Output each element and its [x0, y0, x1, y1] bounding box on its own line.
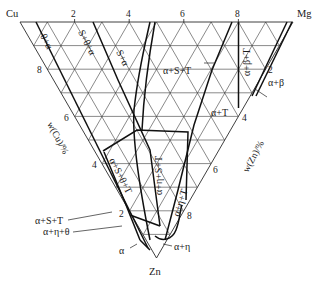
right-axis-label: w(Zn)/%: [241, 139, 267, 175]
leader-lines: [68, 63, 267, 248]
right-tick-4: 4: [242, 113, 247, 123]
ternary-phase-diagram: Cu Mg Zn 2 4 6 8 8 6 4 2 2 4 6 8 w(Cu)/%…: [0, 0, 317, 284]
top-tick-8: 8: [235, 9, 240, 19]
region-alpha-eta-theta: α+η+θ: [43, 226, 70, 237]
left-axis-label: w(Cu)/%: [44, 120, 70, 156]
region-alpha-s-t-top: α+S+T: [163, 65, 191, 76]
left-tick-6: 6: [64, 113, 69, 123]
top-tick-2: 2: [71, 9, 76, 19]
region-alpha-eta: α+η: [174, 241, 190, 252]
region-theta-alpha: θ+α: [38, 32, 55, 52]
region-alpha-t: α+T: [211, 107, 228, 118]
region-s-alpha: S+α: [114, 48, 132, 68]
top-tick-6: 6: [180, 9, 185, 19]
region-alpha-beta-t: α+β+T: [241, 48, 252, 76]
left-tick-4: 4: [92, 160, 97, 170]
region-alpha: α: [119, 245, 125, 256]
region-s-theta-alpha: S+θ+α: [76, 28, 98, 58]
right-tick-8: 8: [187, 211, 192, 221]
right-tick-2: 2: [268, 65, 273, 75]
corner-label-zn: Zn: [149, 266, 161, 277]
region-alpha-beta: α+β: [268, 77, 284, 88]
left-tick-2: 2: [119, 209, 124, 219]
corner-label-cu: Cu: [6, 8, 19, 19]
corner-label-mg: Mg: [297, 8, 312, 19]
left-tick-8: 8: [37, 65, 42, 75]
top-tick-4: 4: [126, 9, 131, 19]
right-tick-6: 6: [213, 165, 218, 175]
region-alpha-s-t-left: α+S+T: [35, 215, 63, 226]
region-alpha-eta-s-t: α+η+S+T: [153, 156, 164, 195]
